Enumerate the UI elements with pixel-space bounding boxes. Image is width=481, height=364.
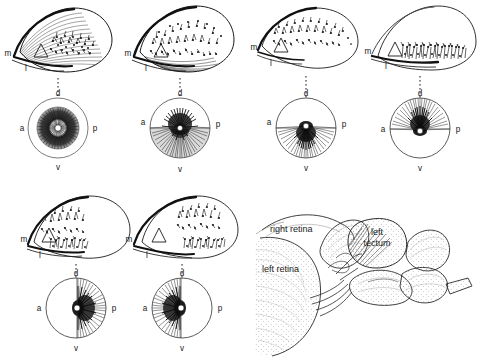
tectum-arbor-patch-upper: [41, 206, 84, 234]
retina-label-ventral: v: [56, 163, 61, 172]
optic-disc: [303, 123, 309, 129]
label-lateral: l: [385, 62, 387, 71]
label-left-tectum-line1: left: [371, 227, 384, 237]
panel-5-tectum: [27, 196, 130, 258]
triangle-marker-icon: [388, 42, 402, 56]
label-left-retina: left retina: [262, 264, 299, 274]
retina-label-posterior: p: [93, 124, 98, 133]
retina-label-posterior: p: [456, 125, 461, 134]
retina-label-dorsal: d: [56, 89, 61, 98]
label-right-retina: right retina: [270, 224, 313, 234]
retina-label-dorsal: d: [418, 89, 423, 98]
label-lateral: l: [270, 59, 272, 68]
retina-label-posterior: p: [216, 120, 221, 129]
tectum-arbor-patch-lower: [183, 236, 225, 249]
optic-disc: [74, 305, 80, 311]
retina-label-posterior: p: [342, 120, 347, 129]
retina-label-anterior: a: [37, 304, 42, 313]
figure-canvas: m l: [0, 0, 481, 364]
label-lateral: l: [146, 251, 148, 260]
retina-label-anterior: a: [381, 125, 386, 134]
panel-6-tectum: [133, 196, 238, 258]
tectum-arbor-patch: [401, 42, 466, 59]
tectum-arbor-patch: [273, 17, 352, 46]
panel-3-tectum: [257, 8, 358, 68]
optic-disc: [417, 128, 423, 134]
spinal-cord: [446, 278, 472, 294]
panel-1-graphic: m l: [0, 0, 120, 180]
panel-6-graphic: m l: [120, 190, 248, 364]
panel-1-retina-map: [28, 98, 88, 158]
label-medial: m: [251, 43, 258, 52]
tectum-arbor-patch-upper: [177, 203, 220, 230]
label-lateral: l: [145, 64, 147, 73]
retina-label-dorsal: d: [74, 269, 79, 278]
label-medial: m: [126, 235, 133, 244]
cerebellum-lobe: [406, 230, 450, 271]
retina-label-dorsal: d: [180, 269, 185, 278]
label-medial: m: [125, 49, 132, 58]
left-retina-shape: [254, 237, 321, 356]
panel-4-tectum: [371, 6, 476, 70]
retina-label-ventral: v: [304, 164, 309, 173]
panel-6: m l: [120, 190, 248, 364]
panel-3-retina-map: [276, 98, 336, 158]
triangle-marker-icon: [274, 38, 288, 52]
retina-label-dorsal: d: [304, 89, 309, 98]
tectum-arbor-patch: [150, 20, 222, 56]
retina-label-anterior: a: [20, 124, 25, 133]
retina-label-posterior: p: [218, 304, 223, 313]
panel-2-retina-map: [150, 98, 210, 160]
retina-label-ventral: v: [178, 165, 183, 174]
panel-5-retina-map: [46, 278, 108, 338]
retina-label-ventral: v: [418, 164, 423, 173]
optic-disc: [178, 305, 184, 311]
tectum-fiber-bundle: [18, 13, 102, 67]
label-medial: m: [365, 47, 372, 56]
retina-label-dorsal: d: [178, 89, 183, 98]
label-medial: m: [5, 49, 12, 58]
label-left-tectum-line2: tectum: [363, 238, 390, 248]
retina-label-ventral: v: [180, 344, 185, 353]
retina-label-posterior: p: [112, 304, 117, 313]
panel-6-retina-map: [150, 278, 212, 338]
retina-label-anterior: a: [141, 118, 146, 127]
optic-disc: [177, 125, 182, 130]
panel-2: m l: [118, 0, 243, 180]
retina-label-anterior: a: [143, 304, 148, 313]
retina-label-ventral: v: [74, 344, 79, 353]
panel-1: m l: [0, 0, 120, 180]
panel-4-retina-map: [390, 98, 450, 158]
brain-inset: right retina left retina left tectum: [250, 198, 481, 364]
panel-2-graphic: m l: [118, 0, 243, 180]
tectum-arbor-patch-lower: [49, 236, 88, 249]
panel-4: m l: [362, 0, 481, 180]
panel-3: m l: [248, 0, 368, 180]
label-lateral: l: [25, 64, 27, 73]
panel-2-tectum: [132, 6, 234, 73]
label-lateral: l: [39, 251, 41, 260]
panel-1-tectum: [12, 8, 112, 72]
optic-disc: [55, 125, 61, 131]
brain-graphic: right retina left retina left tectum: [250, 198, 481, 364]
panel-4-graphic: m l: [362, 0, 481, 180]
retina-label-anterior: a: [267, 118, 272, 127]
label-medial: m: [21, 235, 28, 244]
panel-3-graphic: m l: [248, 0, 368, 180]
triangle-marker-icon: [152, 228, 166, 242]
